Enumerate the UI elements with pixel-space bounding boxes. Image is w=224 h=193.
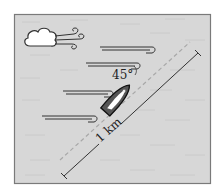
wind-boat-diagram: 45° 1 km [0,0,224,193]
angle-label: 45° [112,68,133,82]
